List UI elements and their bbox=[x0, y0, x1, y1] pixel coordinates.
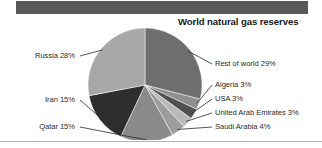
pie-slice-label: Algeria 3% bbox=[215, 80, 251, 89]
pie-slices bbox=[88, 28, 202, 140]
pie-slice bbox=[88, 28, 145, 96]
bottom-divider-rule bbox=[0, 141, 322, 142]
pie-slice-label: USA 3% bbox=[215, 94, 243, 103]
pie-slice-label: Rest of world 29% bbox=[215, 59, 276, 68]
chart-screenshot: World natural gas reserves Rest of world… bbox=[0, 0, 322, 148]
header-banner bbox=[16, 1, 308, 14]
pie-slice-label: Saudi Arabia 4% bbox=[215, 122, 270, 131]
pie-slice-label: United Arab Emirates 3% bbox=[215, 108, 299, 117]
pie-slice-label: Russia 28% bbox=[35, 51, 75, 60]
pie-chart-figure: World natural gas reserves Rest of world… bbox=[0, 14, 322, 140]
pie-slice-label: Iran 15% bbox=[45, 95, 75, 104]
pie-slice-label: Qatar 15% bbox=[39, 122, 75, 131]
